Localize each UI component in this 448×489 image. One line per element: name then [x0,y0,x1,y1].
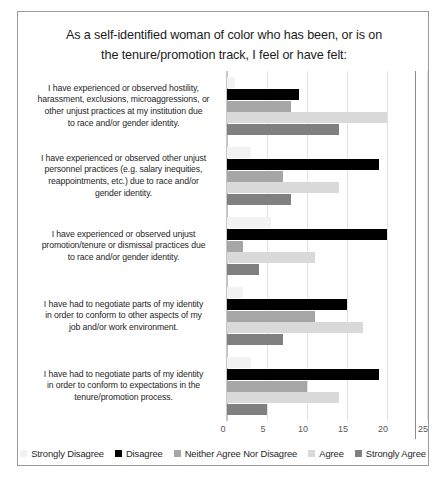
bars-region [226,71,426,421]
category-label-line: I have had to negotiate parts of my iden… [21,299,226,311]
legend-item[interactable]: Strongly Disagree [20,448,104,459]
x-axis-tick-label: 20 [378,424,388,434]
category-label-line: harassment, exclusions, microaggressions… [21,94,226,106]
category-label-line: personnel practices (e.g. salary inequit… [21,164,226,176]
category-label-line: in order to conform to expectations in t… [21,380,226,392]
bar [227,217,271,228]
bar [227,322,363,333]
bar [227,241,243,252]
gridline [387,71,388,421]
x-axis-tick-label: 5 [260,424,265,434]
category-label-line: tenure/promotion process. [21,392,226,404]
bar [227,229,387,240]
bar [227,369,379,380]
legend-swatch-icon [355,450,362,457]
bar [227,89,299,100]
x-axis-tick-label: 25 [418,424,428,434]
bar [227,299,347,310]
legend-item[interactable]: Disagree [115,448,163,459]
plot-right-border [415,71,416,439]
category-label: I have had to negotiate parts of my iden… [21,299,226,334]
gridline [427,71,428,421]
chart-title-line-1: As a self-identified woman of color who … [32,25,416,45]
bar [227,252,315,263]
category-label-line: I have experienced or observed unjust [21,229,226,241]
legend-label: Agree [319,448,344,459]
bar [227,264,259,275]
category-label-line: other unjust practices at my institution… [21,106,226,118]
bar [227,171,283,182]
bar [227,311,315,322]
bar [227,101,291,112]
category-label-line: job and/or work environment. [21,322,226,334]
legend-swatch-icon [174,450,181,457]
category-label-line: I have had to negotiate parts of my iden… [21,369,226,381]
legend-item[interactable]: Neither Agree Nor Disagree [174,448,298,459]
category-axis: I have experienced or observed hostility… [21,71,226,421]
bar [227,404,267,415]
category-label-line: promotion/tenure or dismissal practices … [21,240,226,252]
category-label-line: to race and/or gender identity. [21,118,226,130]
bar [227,287,243,298]
chart-title-line-2: the tenure/promotion track, I feel or ha… [32,45,416,65]
chart-title: As a self-identified woman of color who … [32,25,416,65]
bar [227,194,291,205]
legend-swatch-icon [308,450,315,457]
legend-label: Disagree [126,448,163,459]
category-label-line: reappointments, etc.) due to race and/or [21,176,226,188]
bar [227,334,283,345]
value-axis: 0510152025 [223,424,423,440]
chart-legend: Strongly DisagreeDisagreeNeither Agree N… [18,448,428,459]
bar [227,159,379,170]
category-label: I have experienced or observed unjustpro… [21,229,226,264]
category-label-line: I have experienced or observed other unj… [21,153,226,165]
bar [227,381,307,392]
bar [227,147,251,158]
legend-label: Neither Agree Nor Disagree [185,448,298,459]
bar [227,357,251,368]
x-axis-tick-label: 15 [338,424,348,434]
legend-item[interactable]: Agree [308,448,344,459]
legend-label: Strongly Disagree [31,448,104,459]
category-label-line: in order to conform to other aspects of … [21,310,226,322]
category-label: I have experienced or observed hostility… [21,83,226,129]
x-axis-tick-label: 0 [220,424,225,434]
bar [227,112,387,123]
category-label: I have had to negotiate parts of my iden… [21,369,226,404]
chart-container: As a self-identified woman of color who … [17,11,429,466]
category-label-line: gender identity. [21,188,226,200]
x-axis-tick-label: 10 [298,424,308,434]
legend-item[interactable]: Strongly Agree [355,448,426,459]
category-label-line: I have experienced or observed hostility… [21,83,226,95]
legend-label: Strongly Agree [366,448,426,459]
bar [227,392,339,403]
bar [227,77,235,88]
bar [227,124,339,135]
legend-swatch-icon [20,450,27,457]
category-label-line: to race and/or gender identity. [21,252,226,264]
plot-area: I have experienced or observed hostility… [21,71,426,421]
bar [227,182,339,193]
category-label: I have experienced or observed other unj… [21,153,226,199]
legend-swatch-icon [115,450,122,457]
